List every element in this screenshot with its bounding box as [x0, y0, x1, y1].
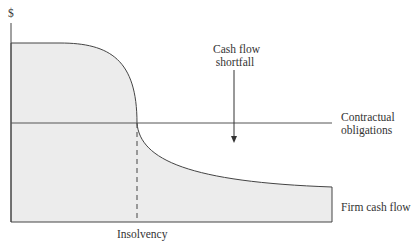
contractual-obligations-label: Contractual obligations — [341, 111, 395, 137]
annotation-line2: shortfall — [213, 56, 257, 69]
annotation-line1: Cash flow — [213, 43, 257, 56]
insolvency-label: Insolvency — [117, 228, 167, 241]
y-axis-label: $ — [8, 7, 14, 20]
firm-cash-flow-label: Firm cash flow — [341, 201, 411, 214]
firm-cash-flow-area — [11, 43, 332, 222]
cash-flow-shortfall-label: Cash flow shortfall — [213, 43, 257, 69]
contractual-line2: obligations — [341, 124, 395, 137]
contractual-line1: Contractual — [341, 111, 395, 124]
shortfall-arrow-head — [231, 136, 237, 143]
